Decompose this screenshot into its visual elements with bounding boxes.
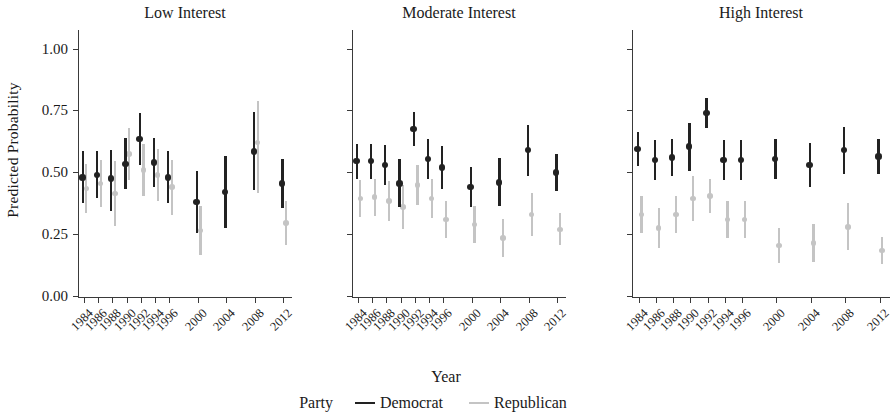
data-point [122, 161, 128, 167]
x-axis-tick-mark [673, 298, 674, 303]
data-point [141, 167, 147, 173]
y-axis-line [78, 30, 79, 298]
x-axis-tick-mark [811, 298, 812, 303]
data-point [353, 158, 359, 164]
x-axis-tick-mark [845, 298, 846, 303]
data-point [112, 191, 118, 197]
x-axis-tick-mark [283, 298, 284, 303]
x-axis-line [78, 297, 292, 298]
data-point [707, 193, 713, 199]
y-axis-tick-mark [347, 172, 352, 173]
x-axis-tick-mark [472, 298, 473, 303]
x-axis-tick-mark [557, 298, 558, 303]
y-axis-tick-mark [627, 234, 632, 235]
x-axis-tick-mark [358, 298, 359, 303]
data-point [467, 184, 473, 190]
x-axis-tick-label: 2008 [505, 306, 541, 342]
data-point [79, 174, 85, 180]
data-point [443, 217, 449, 223]
data-point [165, 174, 171, 180]
y-axis-tick-mark [73, 110, 78, 111]
x-axis-tick-mark [529, 298, 530, 303]
data-point [372, 194, 378, 200]
x-axis-tick-label: 2012 [856, 306, 892, 342]
x-axis-tick-mark [401, 298, 402, 303]
data-point [720, 157, 726, 163]
legend-swatch-republican [469, 402, 489, 405]
x-axis-tick-mark [708, 298, 709, 303]
legend-title: Party [299, 394, 333, 412]
panel-low-interest: Low Interest1984198619881990199219941996… [78, 30, 292, 298]
y-axis-tick-label: 0.50 [42, 164, 68, 181]
data-point [439, 164, 445, 170]
data-point [634, 146, 640, 152]
panel-title: Low Interest [78, 4, 292, 22]
data-point [772, 156, 778, 162]
y-axis-tick-mark [73, 49, 78, 50]
data-point [425, 156, 431, 162]
x-axis-tick-label: 2000 [174, 306, 210, 342]
x-axis-tick-label: 2004 [203, 306, 239, 342]
legend-item-democrat[interactable]: Democrat [355, 394, 443, 412]
panel-moderate-interest: Moderate Interest19841986198819901992199… [352, 30, 566, 298]
data-point [255, 140, 261, 146]
y-axis-tick-mark [73, 172, 78, 173]
data-point [841, 147, 847, 153]
data-point [415, 182, 421, 188]
x-axis-tick-mark [226, 298, 227, 303]
data-point [198, 228, 204, 234]
data-point [496, 179, 502, 185]
data-point [529, 212, 535, 218]
y-axis-tick-mark [347, 234, 352, 235]
x-axis-tick-mark [443, 298, 444, 303]
y-axis-tick-mark [627, 172, 632, 173]
data-point [673, 212, 679, 218]
data-point [686, 143, 692, 149]
data-point [155, 172, 161, 178]
x-axis-tick-mark [429, 298, 430, 303]
x-axis-title: Year [0, 368, 892, 386]
y-axis-tick-labels: 0.000.250.500.751.00 [18, 0, 68, 300]
x-axis-tick-label: 2012 [260, 306, 296, 342]
plot-area: 1984198619881990199219941996200020042008… [632, 30, 890, 298]
x-axis-tick-mark [84, 298, 85, 303]
data-point [358, 196, 364, 202]
x-axis-tick-mark [155, 298, 156, 303]
y-axis-tick-label: 0.00 [42, 288, 68, 305]
x-axis-tick-mark [98, 298, 99, 303]
x-axis-tick-mark [127, 298, 128, 303]
x-axis-tick-mark [386, 298, 387, 303]
x-axis-tick-label: 2008 [231, 306, 267, 342]
y-axis-tick-label: 0.75 [42, 102, 68, 119]
data-point [669, 154, 675, 160]
data-point [656, 225, 662, 231]
data-point [811, 240, 817, 246]
x-axis-tick-label: 2004 [477, 306, 513, 342]
x-axis-tick-mark [372, 298, 373, 303]
data-point [703, 110, 709, 116]
plot-area: 1984198619881990199219941996200020042008… [352, 30, 566, 298]
x-axis-tick-mark [415, 298, 416, 303]
data-point [382, 162, 388, 168]
data-point [845, 224, 851, 230]
x-axis-tick-mark [725, 298, 726, 303]
data-point [84, 186, 90, 192]
x-axis-tick-label: 2008 [822, 306, 858, 342]
panel-high-interest: High Interest198419861988199019921994199… [632, 30, 890, 298]
y-axis-tick-mark [627, 49, 632, 50]
panel-title: High Interest [632, 4, 890, 22]
data-point [429, 196, 435, 202]
data-point [806, 162, 812, 168]
legend-label: Democrat [380, 394, 443, 412]
data-point [368, 158, 374, 164]
plot-area: 1984198619881990199219941996200020042008… [78, 30, 292, 298]
legend-item-republican[interactable]: Republican [469, 394, 567, 412]
data-point [400, 204, 406, 210]
data-point [738, 157, 744, 163]
legend: Party DemocratRepublican [0, 394, 892, 412]
x-axis-tick-mark [656, 298, 657, 303]
x-axis-tick-mark [198, 298, 199, 303]
data-point [98, 181, 104, 187]
confidence-interval-bar [257, 101, 259, 194]
data-point [410, 126, 416, 132]
